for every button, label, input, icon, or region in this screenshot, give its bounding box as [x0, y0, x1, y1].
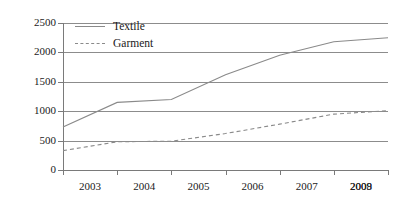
- legend-label-textile: Textile: [113, 18, 145, 34]
- series-line-garment: [63, 111, 388, 151]
- series-layer: [0, 0, 408, 209]
- series-line-textile: [63, 38, 388, 127]
- line-chart: 05001000150020002500 2003200420052006200…: [0, 0, 408, 209]
- legend-swatch-solid-icon: [75, 26, 105, 27]
- legend-label-garment: Garment: [113, 35, 153, 51]
- legend-swatch-dashed-icon: [75, 43, 105, 44]
